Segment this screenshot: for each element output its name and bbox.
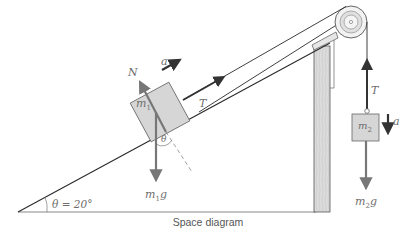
dashed-perpendicular — [166, 132, 192, 172]
hook-icon — [365, 109, 370, 114]
label-tension-vertical: T — [371, 85, 378, 96]
diagram-caption: Space diagram — [0, 216, 416, 228]
label-weight-m2: m2g — [355, 196, 377, 210]
pulley-axle-icon — [349, 20, 352, 23]
pulley — [335, 6, 367, 38]
space-diagram: N a m1 T θ m1g θ = 20° T m2 a m2g Space … — [0, 0, 416, 234]
label-normal-force: N — [128, 67, 138, 78]
label-accel-m1: a — [161, 56, 168, 67]
incline-angle-arc — [45, 197, 47, 212]
label-incline-angle: θ = 20° — [52, 199, 92, 210]
label-mass-m2: m2 — [358, 121, 372, 134]
label-tension-incline: T — [199, 98, 206, 109]
wooden-post — [314, 46, 330, 212]
label-theta-small: θ — [161, 135, 166, 144]
label-accel-m2: a — [393, 116, 400, 127]
label-mass-m1: m1 — [136, 98, 151, 112]
label-weight-m1: m1g — [145, 189, 167, 203]
